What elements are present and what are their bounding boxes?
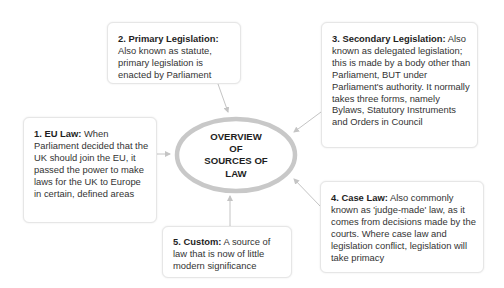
node-title: 5. Custom: [173,236,221,247]
connector-primary-legislation [218,84,228,112]
center-title-line: OVERVIEW [176,131,296,143]
connector-secondary-legislation [294,112,321,132]
connector-case-law [294,179,320,206]
node-title: 4. Case Law: [331,192,388,203]
node-custom: 5. Custom: A source of law that is now o… [162,226,292,278]
center-title-line: OF [176,143,296,155]
node-text: Also known as statute, primary legislati… [118,45,212,80]
node-primary-legislation: 2. Primary Legislation: Also known as st… [107,22,241,84]
node-title: 3. Secondary Legislation: [332,33,446,44]
center-title: OVERVIEW OF SOURCES OF LAW [176,131,296,180]
center-title-line: SOURCES OF [176,155,296,167]
node-case-law: 4. Case Law: Also commonly known as 'jud… [320,181,484,273]
node-title: 2. Primary Legislation: [118,33,219,44]
node-title: 1. EU Law: [34,128,81,139]
center-title-line: LAW [176,168,296,180]
node-text: Also known as delegated legislation; thi… [332,33,470,127]
node-secondary-legislation: 3. Secondary Legislation: Also known as … [321,22,478,148]
node-eu-law: 1. EU Law: When Parliament decided that … [23,117,157,223]
